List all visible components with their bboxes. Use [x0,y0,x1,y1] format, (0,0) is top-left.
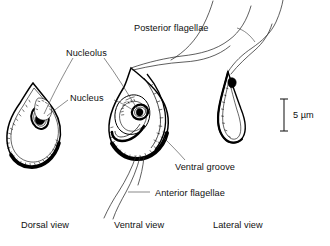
label-ventral-groove: Ventral groove [175,162,235,172]
label-posterior-flagellae: Posterior flagellae [134,23,209,33]
caption-ventral-view: Ventral view [114,220,164,230]
view-captions: Dorsal view Ventral view Lateral view [21,220,263,230]
label-anterior-flagellae: Anterior flagellae [155,188,225,198]
caption-dorsal-view: Dorsal view [21,220,69,230]
ventral-nucleolus [136,109,143,117]
label-nucleus: Nucleus [70,93,104,103]
figure-root: 5 µm Posterior flagellae Nucleolus Nucle… [0,0,330,246]
label-nucleolus: Nucleolus [66,48,107,58]
scale-bar-label: 5 µm [293,110,314,120]
protozoan-diagram: 5 µm Posterior flagellae Nucleolus Nucle… [0,0,330,246]
lateral-cytostome-knot [228,78,236,88]
caption-lateral-view: Lateral view [213,220,263,230]
